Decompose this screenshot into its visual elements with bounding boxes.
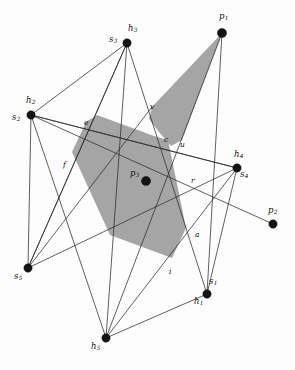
shaded-regions-layer: [72, 33, 222, 258]
label-f: f: [63, 161, 66, 169]
seg-h5-h1: [106, 294, 207, 338]
label-h2: h2: [26, 96, 35, 106]
seg-s2-s5: [28, 115, 31, 268]
vertex-dot-h5: [102, 334, 110, 342]
vertex-dot-s5: [24, 264, 32, 272]
label-c: c: [164, 136, 168, 144]
label-h5: h5: [91, 342, 100, 352]
vertex-dot-h3s3: [123, 39, 131, 47]
label-h4: h4: [234, 150, 243, 160]
vertex-dot-p3: [141, 176, 150, 185]
label-h1: h1: [194, 297, 203, 307]
label-p1: p1: [219, 12, 228, 22]
vertex-dot-h1s1: [203, 290, 211, 298]
vertex-dot-h2s2: [27, 111, 35, 119]
label-r: r: [191, 177, 195, 185]
label-s4: s4: [240, 170, 248, 180]
geometric-figure: h3s3p1h2s2h4s4p3p2s5s1h1h5 evcufrai: [0, 0, 295, 370]
label-v: v: [150, 103, 154, 111]
label-p3: p3: [130, 169, 139, 179]
label-s5: s5: [14, 272, 22, 282]
seg-s3-s2: [31, 43, 127, 115]
label-s1: s1: [209, 277, 217, 287]
figure-canvas: [0, 0, 295, 370]
label-h3: h3: [128, 24, 137, 34]
vertex-dot-p1: [217, 28, 226, 37]
label-e: e: [84, 119, 88, 127]
label-a: a: [195, 231, 199, 239]
label-s3: s3: [109, 35, 117, 45]
vertex-dot-p2: [269, 220, 277, 228]
label-i: i: [169, 268, 171, 276]
label-u: u: [180, 141, 185, 149]
label-p2: p2: [268, 206, 277, 216]
label-s2: s2: [12, 113, 20, 123]
